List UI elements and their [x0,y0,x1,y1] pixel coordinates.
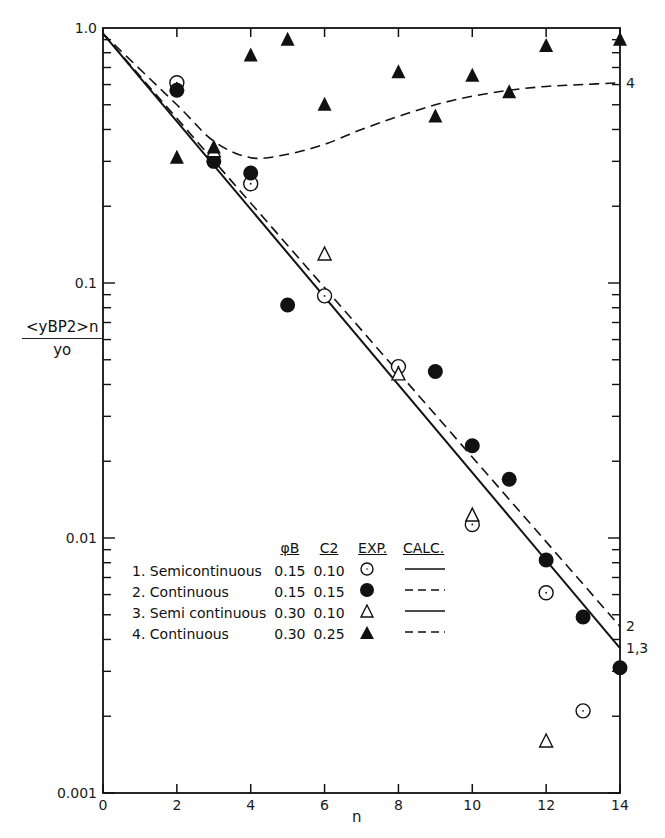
legend-row-label: 1. Semicontinuous [128,560,270,581]
filled-circle-marker [576,610,591,625]
curve-end-label: 2 [626,618,635,634]
solid-line-icon [397,602,451,623]
legend-row-phi: 0.15 [270,581,309,602]
filled-triangle-marker [502,84,516,98]
filled-triangle-marker [318,97,332,111]
legend-row-phi: 0.30 [270,602,309,623]
legend-header-spacer [128,538,270,560]
x-tick-label: 4 [246,797,255,813]
y-tick-label: 1.0 [75,20,97,36]
filled-circle-marker [428,364,443,379]
legend-row-c2: 0.10 [309,560,348,581]
filled-triangle-marker [465,68,479,82]
legend-row-label: 4. Continuous [128,623,270,644]
filled-triangle-marker [391,64,405,78]
open-circle-dot [324,295,326,297]
legend: φB C2 EXP. CALC. 1. Semicontinuous 0.15 … [128,538,451,644]
filled-circle-marker [169,83,184,98]
legend-row-c2: 0.25 [309,623,348,644]
x-tick-label: 14 [611,797,629,813]
chart-plot: 024681012141.00.10.010.0011,324 [0,0,665,838]
y-tick-label: 0.001 [57,785,97,801]
dashed-line-icon [397,581,451,602]
filled-circle-marker [502,472,517,487]
y-axis-label: <yBP2>n yo [22,318,102,359]
open-circle-dot [471,524,473,526]
legend-header-phi: φB [270,538,309,560]
filled-circle-marker [243,166,258,181]
legend-header-exp: EXP. [349,538,397,560]
filled-circle-marker [539,552,554,567]
curve-end-label: 1,3 [626,640,648,656]
y-tick-label: 0.1 [75,275,97,291]
filled-circle-marker [613,660,628,675]
filled-triangle-marker [281,32,295,46]
filled-triangle-marker [207,139,221,153]
legend-row-c2: 0.15 [309,581,348,602]
legend-row: 2. Continuous 0.15 0.15 [128,581,451,602]
legend-row-label: 2. Continuous [128,581,270,602]
x-axis-label: n [352,808,362,826]
legend-row-c2: 0.10 [309,602,348,623]
curve-end-label: 4 [626,75,635,91]
filled-triangle-marker [539,38,553,52]
filled-circle-marker [465,438,480,453]
filled-triangle-marker [613,32,627,46]
dashed-line-icon [397,623,451,644]
filled-triangle-icon [349,623,397,644]
y-axis-label-denominator: yo [22,339,102,359]
x-tick-label: 12 [537,797,555,813]
x-tick-label: 6 [320,797,329,813]
filled-circle-marker [280,297,295,312]
x-tick-label: 8 [394,797,403,813]
open-circle-dot [582,710,584,712]
legend-row: 3. Semi continuous 0.30 0.10 [128,602,451,623]
legend-row-label: 3. Semi continuous [128,602,270,623]
legend-header-calc: CALC. [397,538,451,560]
legend-row: 1. Semicontinuous 0.15 0.10 [128,560,451,581]
y-tick-label: 0.01 [66,530,97,546]
x-tick-label: 2 [172,797,181,813]
open-triangle-icon [349,602,397,623]
legend-row-phi: 0.15 [270,560,309,581]
filled-triangle-marker [244,48,258,62]
filled-circle-icon [349,581,397,602]
plot-frame [103,28,620,793]
filled-triangle-marker [170,150,184,164]
legend-row: 4. Continuous 0.30 0.25 [128,623,451,644]
y-axis-label-numerator: <yBP2>n [22,318,102,339]
legend-row-phi: 0.30 [270,623,309,644]
solid-line-icon [397,560,451,581]
open-triangle-marker [318,247,331,260]
open-circle-icon [349,560,397,581]
open-circle-dot [545,592,547,594]
x-tick-label: 10 [463,797,481,813]
open-triangle-marker [466,508,479,521]
legend-header-c2: C2 [309,538,348,560]
filled-triangle-marker [428,108,442,122]
open-circle-dot [250,183,252,185]
open-triangle-marker [540,734,553,747]
x-tick-label: 0 [99,797,108,813]
